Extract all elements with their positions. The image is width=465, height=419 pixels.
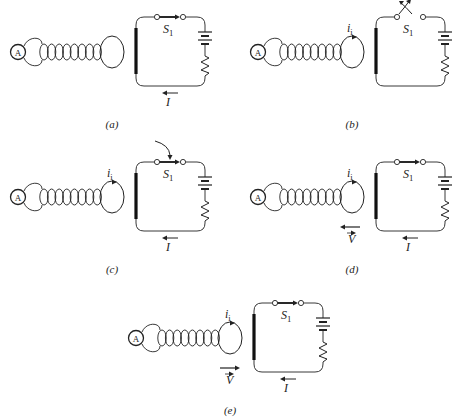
current-indicator: I <box>402 236 418 255</box>
velocity-indicator: V <box>220 366 240 388</box>
coil-turn <box>318 44 326 60</box>
lead-loop <box>264 38 282 66</box>
induction-figure: AS1I(a)AiiS1(b)AiiS1I(c)AiiVS1I(d)AiiVS1… <box>0 0 465 419</box>
lead-loop <box>24 183 42 211</box>
panel-caption: (d) <box>346 263 359 276</box>
switch-label: S1 <box>163 22 173 38</box>
coil-end-loop <box>340 36 364 68</box>
coil-turn <box>78 189 86 205</box>
resistor-icon <box>201 201 209 221</box>
coil-turn <box>196 330 204 346</box>
panel-caption: (c) <box>106 263 119 276</box>
induced-current-arrow <box>230 321 235 326</box>
coil-turn <box>78 44 86 60</box>
velocity-arrow-right <box>235 366 240 371</box>
panel-caption: (e) <box>224 404 237 417</box>
lead-loop <box>24 38 42 66</box>
ammeter-label: A <box>15 193 22 203</box>
induced-current-arrow <box>352 35 357 40</box>
switch-contact-left <box>394 14 399 19</box>
ammeter-label: A <box>255 48 262 58</box>
coil-turn <box>203 330 211 346</box>
coil-end-loop <box>100 36 124 68</box>
circuit: S1I <box>136 141 212 254</box>
induced-current-label: ii <box>107 166 113 182</box>
coil-end-loop <box>100 181 124 213</box>
switch-closing-arrowhead <box>168 155 173 160</box>
coil-turn <box>85 44 93 60</box>
coil-turn <box>303 189 311 205</box>
velocity-arrow-left <box>340 225 345 230</box>
switch-closing-arrow <box>155 141 173 160</box>
coil-turn <box>47 189 55 205</box>
coil-turn <box>40 44 48 60</box>
coil-turn <box>158 330 166 346</box>
switch-arrow <box>175 160 180 165</box>
panel-c: AiiS1I(c) <box>11 141 213 276</box>
coil-assembly: AiiV <box>129 307 243 387</box>
battery-icon <box>198 32 212 44</box>
coil-turn <box>303 44 311 60</box>
coil-assembly: Aii <box>11 166 125 213</box>
coil-turn <box>295 44 303 60</box>
coil-turn <box>188 330 196 346</box>
coil-turn <box>63 44 71 60</box>
circuit: S1 <box>376 0 452 86</box>
coil-turn <box>40 189 48 205</box>
current-indicator: I <box>162 91 178 110</box>
switch-contact-right <box>420 159 425 164</box>
switch-contact-left <box>394 159 399 164</box>
switch-label: S1 <box>403 22 413 38</box>
battery-icon <box>198 177 212 189</box>
resistor-icon <box>441 201 449 221</box>
battery-icon <box>316 318 330 330</box>
current-indicator: I <box>162 236 178 255</box>
coil-turn <box>181 330 189 346</box>
resistor-icon <box>319 342 327 362</box>
switch-arrow <box>293 301 298 306</box>
coil-turn <box>70 44 78 60</box>
lead-loop <box>264 183 282 211</box>
coil-turn <box>310 44 318 60</box>
coil-assembly: Aii <box>251 21 365 68</box>
coil-turn <box>165 330 173 346</box>
circuit: S1I <box>254 300 330 395</box>
ammeter-label: A <box>15 48 22 58</box>
coil-turn <box>55 189 63 205</box>
coil-turn <box>280 44 288 60</box>
coil-turn <box>287 189 295 205</box>
switch-contact-left <box>154 159 159 164</box>
switch-label: S1 <box>163 167 173 183</box>
switch-label: S1 <box>403 167 413 183</box>
coil-turn <box>310 189 318 205</box>
induced-current-label: ii <box>225 307 231 323</box>
panel-d: AiiVS1I(d) <box>251 159 453 276</box>
coil-assembly: A <box>11 36 125 68</box>
current-label: I <box>165 95 171 109</box>
switch-arrow <box>175 15 180 20</box>
coil-turn <box>85 189 93 205</box>
panel-caption: (b) <box>346 118 359 131</box>
panel-a: AS1I(a) <box>11 14 213 131</box>
current-label: I <box>283 381 289 395</box>
induced-current-label: ii <box>347 166 353 182</box>
switch-contact-right <box>180 14 185 19</box>
panel-caption: (a) <box>106 118 119 131</box>
ammeter-label: A <box>133 334 140 344</box>
coil-turn <box>70 189 78 205</box>
switch-contact-left <box>154 14 159 19</box>
coil-turn <box>173 330 181 346</box>
switch-label: S1 <box>281 308 291 324</box>
panel-e: AiiVS1I(e) <box>129 300 331 417</box>
induced-current-arrow <box>352 180 357 185</box>
resistor-icon <box>441 56 449 76</box>
induced-current-arrow <box>112 180 117 185</box>
current-label: I <box>165 240 171 254</box>
ammeter-label: A <box>255 193 262 203</box>
switch-contact-left <box>272 300 277 305</box>
coil-turn <box>325 44 333 60</box>
circuit: S1I <box>136 14 212 109</box>
velocity-indicator: V <box>340 225 360 247</box>
switch-arrow <box>415 160 420 165</box>
coil-turn <box>47 44 55 60</box>
